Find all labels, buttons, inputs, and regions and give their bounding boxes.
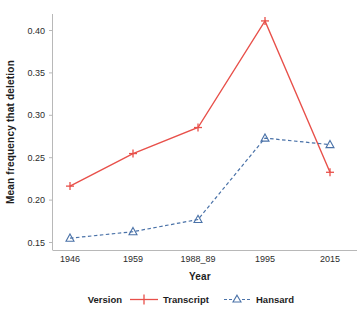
y-tick-label-020: 0.20: [27, 195, 45, 205]
x-tick-label-1995: 1995: [255, 254, 275, 264]
chart-legend: Version Transcript Hansard: [88, 294, 295, 305]
legend-marker-triangle-icon: [224, 295, 250, 302]
series-layer: [66, 17, 334, 241]
series-line-transcript: [70, 21, 330, 186]
legend-title: Version: [88, 294, 123, 305]
data-point-transcript-1959[interactable]: [129, 150, 137, 158]
chart-figure: 0.40 0.35 0.30 0.25 0.20 0.15 Mean frequ…: [0, 0, 363, 316]
series-line-hansard: [70, 138, 330, 238]
y-tick-label-030: 0.30: [27, 110, 45, 120]
y-tick-label-035: 0.35: [27, 68, 45, 78]
data-point-transcript-2015[interactable]: [326, 168, 334, 176]
legend-entry-transcript[interactable]: Transcript: [130, 294, 210, 305]
data-point-transcript-1946[interactable]: [66, 182, 74, 190]
x-axis-title: Year: [189, 271, 211, 282]
data-point-transcript-1988_89[interactable]: [194, 124, 202, 132]
x-tick-label-2015: 2015: [320, 254, 340, 264]
data-point-transcript-1995[interactable]: [261, 17, 269, 25]
legend-label-transcript: Transcript: [163, 294, 210, 305]
legend-marker-plus-icon: [130, 295, 158, 305]
legend-label-hansard: Hansard: [256, 294, 294, 305]
x-tick-label-1959: 1959: [123, 254, 143, 264]
y-tick-label-040: 0.40: [27, 26, 45, 36]
line-chart-canvas: 0.40 0.35 0.30 0.25 0.20 0.15 Mean frequ…: [0, 0, 363, 316]
y-tick-label-025: 0.25: [27, 153, 45, 163]
y-axis-title: Mean frequency that deletion: [5, 60, 16, 204]
x-tick-label-1946: 1946: [60, 254, 80, 264]
x-tick-label-1988-89: 1988_89: [180, 254, 215, 264]
legend-entry-hansard[interactable]: Hansard: [224, 294, 294, 305]
y-axis-ticks: [49, 31, 53, 243]
y-tick-label-015: 0.15: [27, 238, 45, 248]
